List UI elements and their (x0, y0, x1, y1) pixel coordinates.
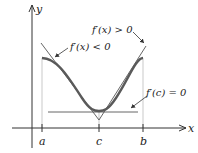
arrow-horizontal-annotation (131, 96, 147, 108)
tick-label-a: a (39, 135, 46, 148)
tick-label-c: c (96, 135, 102, 148)
x-axis-label: x (188, 122, 195, 135)
derivative-diagram: y x a c b f′(x) < 0 f′(x) > 0 f′(c) = 0 (0, 0, 198, 153)
annotation-right-tangent: f′(x) > 0 (91, 24, 133, 35)
arrow-right-annotation (133, 32, 144, 43)
tick-label-b: b (140, 135, 147, 148)
arrow-left-annotation (55, 48, 68, 57)
y-axis-label: y (35, 3, 43, 16)
annotation-left-tangent: f′(x) < 0 (69, 41, 111, 52)
function-curve (42, 58, 143, 111)
annotation-horizontal-tangent: f′(c) = 0 (145, 87, 187, 98)
